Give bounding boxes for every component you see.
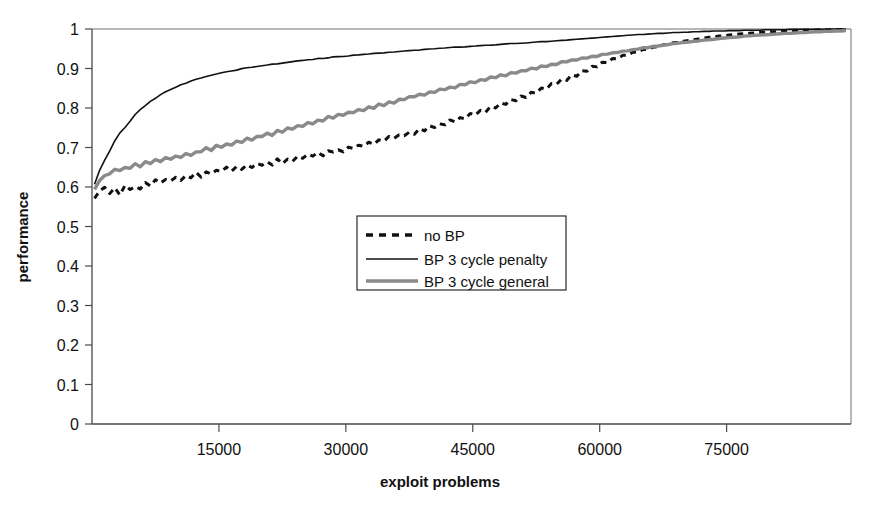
x-tick-label: 45000 bbox=[451, 441, 496, 458]
legend-label-0: no BP bbox=[424, 227, 465, 244]
x-tick-label: 15000 bbox=[197, 441, 242, 458]
y-tick-label: 0.6 bbox=[57, 179, 79, 196]
x-axis-title: exploit problems bbox=[380, 473, 500, 490]
y-tick-label: 0.1 bbox=[57, 377, 79, 394]
y-tick-label: 0.8 bbox=[57, 100, 79, 117]
y-tick-label: 0.4 bbox=[57, 258, 79, 275]
y-tick-label: 1 bbox=[70, 21, 79, 38]
x-tick-label: 30000 bbox=[324, 441, 369, 458]
chart-legend[interactable]: no BPBP 3 cycle penaltyBP 3 cycle genera… bbox=[357, 216, 566, 290]
legend-label-2: BP 3 cycle general bbox=[424, 273, 549, 290]
legend-label-1: BP 3 cycle penalty bbox=[424, 251, 548, 268]
y-tick-label: 0.9 bbox=[57, 61, 79, 78]
y-axis-title: performance bbox=[14, 192, 31, 283]
performance-line-chart: 00.10.20.30.40.50.60.70.80.91 1500030000… bbox=[0, 0, 880, 519]
chart-figure: 00.10.20.30.40.50.60.70.80.91 1500030000… bbox=[0, 0, 880, 519]
y-tick-label: 0.7 bbox=[57, 140, 79, 157]
y-tick-label: 0.5 bbox=[57, 219, 79, 236]
y-tick-label: 0.3 bbox=[57, 298, 79, 315]
y-tick-label: 0 bbox=[70, 416, 79, 433]
x-tick-label: 60000 bbox=[577, 441, 622, 458]
y-tick-label: 0.2 bbox=[57, 337, 79, 354]
x-tick-label: 75000 bbox=[704, 441, 749, 458]
